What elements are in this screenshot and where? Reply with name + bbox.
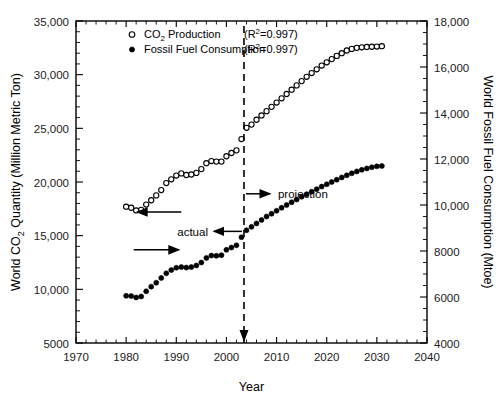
data-point bbox=[154, 193, 159, 198]
data-point bbox=[344, 48, 349, 53]
data-point bbox=[169, 268, 174, 273]
data-point bbox=[259, 217, 264, 222]
data-point bbox=[339, 51, 344, 56]
x-tick-label: 1970 bbox=[63, 351, 89, 363]
x-tick-label: 2000 bbox=[214, 351, 240, 363]
data-point bbox=[319, 63, 324, 68]
data-point bbox=[359, 167, 364, 172]
data-point bbox=[234, 243, 239, 248]
data-point bbox=[224, 154, 229, 159]
data-point bbox=[369, 44, 374, 49]
y2-tick-label: 16,000 bbox=[434, 62, 469, 74]
data-point bbox=[164, 180, 169, 185]
data-point bbox=[224, 247, 229, 252]
data-point bbox=[354, 169, 359, 174]
y2-tick-label: 4000 bbox=[434, 338, 460, 350]
data-point bbox=[204, 255, 209, 260]
data-point bbox=[234, 148, 239, 153]
data-point bbox=[269, 104, 274, 109]
data-point bbox=[274, 100, 279, 105]
data-point bbox=[174, 173, 179, 178]
data-point bbox=[379, 163, 384, 168]
data-point bbox=[364, 44, 369, 49]
data-point bbox=[189, 172, 194, 177]
chart-canvas: 19701980199020002010202020302040 500010,… bbox=[0, 0, 500, 404]
data-point bbox=[334, 177, 339, 182]
data-point bbox=[329, 180, 334, 185]
data-point bbox=[194, 263, 199, 268]
data-point bbox=[139, 294, 144, 299]
data-point bbox=[184, 265, 189, 270]
y-tick-label: 5000 bbox=[43, 338, 69, 350]
data-point bbox=[189, 265, 194, 270]
data-point bbox=[174, 265, 179, 270]
data-point bbox=[349, 46, 354, 51]
y2-tick-label: 6000 bbox=[434, 292, 460, 304]
data-point bbox=[179, 265, 184, 270]
data-point bbox=[154, 280, 159, 285]
data-point bbox=[169, 177, 174, 182]
x-tick-label: 2010 bbox=[264, 351, 290, 363]
data-point bbox=[124, 293, 129, 298]
y-tick-label: 30,000 bbox=[34, 69, 69, 81]
data-point bbox=[144, 202, 149, 207]
data-point bbox=[364, 166, 369, 171]
data-point bbox=[229, 245, 234, 250]
legend-r2: (R2=0.997) bbox=[244, 42, 298, 55]
y-tick-label: 10,000 bbox=[34, 284, 69, 296]
actual-label: actual bbox=[177, 226, 208, 238]
projection-label: projection bbox=[278, 188, 328, 200]
data-point bbox=[124, 204, 129, 209]
data-point bbox=[134, 295, 139, 300]
data-point bbox=[309, 70, 314, 75]
data-point bbox=[179, 171, 184, 176]
data-point bbox=[269, 211, 274, 216]
data-point bbox=[349, 171, 354, 176]
data-point bbox=[149, 198, 154, 203]
x-tick-label: 2040 bbox=[414, 351, 440, 363]
y2-tick-label: 10,000 bbox=[434, 200, 469, 212]
data-point bbox=[359, 45, 364, 50]
data-point bbox=[194, 170, 199, 175]
data-point bbox=[209, 158, 214, 163]
data-point bbox=[199, 167, 204, 172]
data-point bbox=[314, 67, 319, 72]
data-point bbox=[264, 214, 269, 219]
y-tick-label: 35,000 bbox=[34, 16, 69, 28]
y2-tick-label: 12,000 bbox=[434, 154, 469, 166]
data-point bbox=[374, 164, 379, 169]
data-point bbox=[249, 122, 254, 127]
legend-r2: (R2=0.997) bbox=[244, 27, 298, 40]
legend-marker-fossil bbox=[129, 47, 134, 52]
data-point bbox=[284, 91, 289, 96]
data-point bbox=[229, 150, 234, 155]
y-tick-label: 15,000 bbox=[34, 230, 69, 242]
data-point bbox=[289, 200, 294, 205]
y-tick-label: 25,000 bbox=[34, 123, 69, 135]
data-point bbox=[159, 187, 164, 192]
data-point bbox=[304, 74, 309, 79]
data-point bbox=[279, 96, 284, 101]
x-tick-label: 2020 bbox=[314, 351, 340, 363]
data-point bbox=[149, 284, 154, 289]
data-point bbox=[129, 205, 134, 210]
data-point bbox=[339, 175, 344, 180]
data-point bbox=[159, 275, 164, 280]
x-axis-title: Year bbox=[239, 380, 264, 394]
data-point bbox=[329, 57, 334, 62]
x-tick-label: 2030 bbox=[364, 351, 390, 363]
data-point bbox=[369, 165, 374, 170]
data-point bbox=[299, 79, 304, 84]
data-point bbox=[379, 44, 384, 49]
x-tick-label: 1980 bbox=[113, 351, 139, 363]
data-point bbox=[209, 253, 214, 258]
y-tick-label: 20,000 bbox=[34, 177, 69, 189]
data-point bbox=[354, 45, 359, 50]
data-point bbox=[164, 271, 169, 276]
data-point bbox=[199, 260, 204, 265]
data-point bbox=[184, 172, 189, 177]
y2-tick-label: 14,000 bbox=[434, 108, 469, 120]
y2-tick-label: 8000 bbox=[434, 246, 460, 258]
data-point bbox=[284, 203, 289, 208]
figure-container: 19701980199020002010202020302040 500010,… bbox=[0, 0, 500, 404]
